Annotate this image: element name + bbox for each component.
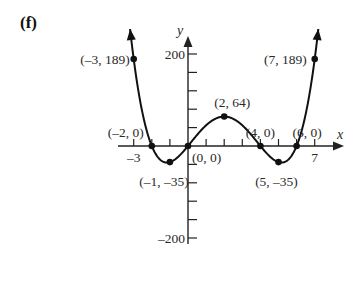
point-label: (–2, 0) xyxy=(108,125,144,140)
data-point xyxy=(167,159,174,166)
data-point xyxy=(185,143,192,150)
point-label: (0, 0) xyxy=(192,150,221,165)
data-point xyxy=(221,113,228,120)
data-point xyxy=(293,143,300,150)
x-axis-arrow-icon xyxy=(333,142,344,151)
point-label: (7, 189) xyxy=(264,52,307,67)
curve-arrow-icon xyxy=(313,29,322,40)
graph-figure: (f) x y –37200–200 (–3, 189)(–2, 0)(–1, … xyxy=(0,0,361,281)
panel-label: (f) xyxy=(20,13,37,32)
y-tick-label: 200 xyxy=(165,47,186,62)
point-label: (–3, 189) xyxy=(80,52,130,67)
data-point xyxy=(130,56,137,63)
data-point xyxy=(275,159,282,166)
x-tick-label: 7 xyxy=(311,150,318,165)
data-point xyxy=(311,56,318,63)
y-tick-label: –200 xyxy=(157,231,185,246)
point-label: (6, 0) xyxy=(293,125,322,140)
data-point xyxy=(149,143,156,150)
y-axis-label: y xyxy=(175,23,184,38)
curve-arrows xyxy=(127,29,322,40)
x-tick-label: –3 xyxy=(126,150,141,165)
point-label: (–1, –35) xyxy=(139,174,189,189)
point-label: (2, 64) xyxy=(214,95,250,110)
labeled-points: (–3, 189)(–2, 0)(–1, –35)(0, 0)(2, 64)(4… xyxy=(80,52,322,189)
y-axis-arrow-icon xyxy=(184,36,193,47)
x-axis-label: x xyxy=(336,127,344,142)
curve-arrow-icon xyxy=(127,29,136,40)
point-label: (5, –35) xyxy=(255,174,298,189)
x-ticks xyxy=(134,139,315,146)
point-label: (4, 0) xyxy=(246,125,275,140)
data-point xyxy=(257,143,264,150)
